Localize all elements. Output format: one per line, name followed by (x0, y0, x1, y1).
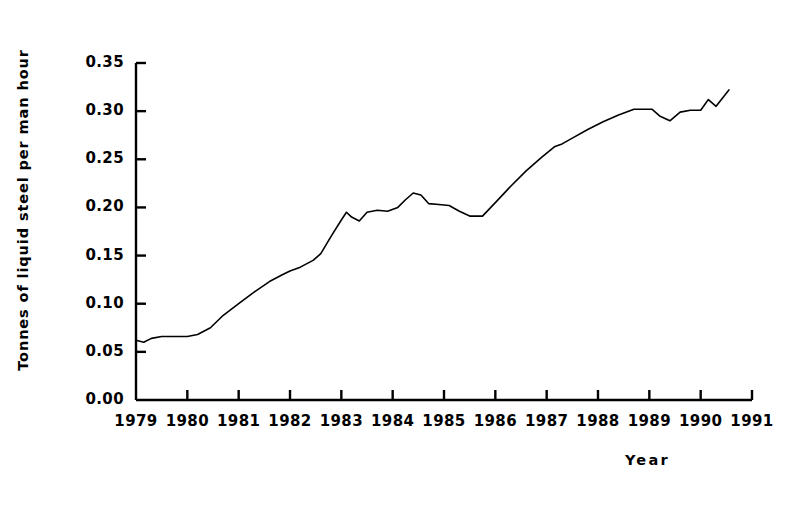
y-tick-label: 0.15 (62, 246, 124, 264)
y-tick-label: 0.35 (62, 53, 124, 71)
y-tick-label: 0.05 (62, 342, 124, 360)
x-tick-label: 1988 (571, 412, 625, 430)
y-tick-label: 0.30 (62, 101, 124, 119)
x-axis-title: Year (625, 452, 670, 468)
x-tick-label: 1979 (109, 412, 163, 430)
y-tick-label: 0.25 (62, 149, 124, 167)
x-tick-label: 1980 (160, 412, 214, 430)
data-series-group (136, 90, 729, 342)
x-axis-ticks (187, 390, 752, 400)
y-axis-title-container: Tonnes of liquid steel per man hour (0, 0, 46, 420)
x-tick-label: 1981 (212, 412, 266, 430)
y-tick-label: 0.10 (62, 294, 124, 312)
x-tick-label: 1982 (263, 412, 317, 430)
x-tick-label: 1984 (366, 412, 420, 430)
y-tick-label: 0.00 (62, 390, 124, 408)
x-tick-label: 1983 (314, 412, 368, 430)
x-tick-label: 1989 (622, 412, 676, 430)
axes-group (136, 63, 752, 400)
x-tick-label: 1985 (417, 412, 471, 430)
y-axis-ticks (136, 63, 146, 352)
chart-figure: Tonnes of liquid steel per man hour 0.00… (0, 0, 806, 505)
y-tick-label: 0.20 (62, 197, 124, 215)
x-tick-label: 1990 (674, 412, 728, 430)
line-series-steel-productivity (136, 90, 729, 342)
x-tick-label: 1987 (520, 412, 574, 430)
x-tick-label: 1991 (725, 412, 779, 430)
x-tick-label: 1986 (468, 412, 522, 430)
y-axis-title: Tonnes of liquid steel per man hour (15, 49, 31, 371)
